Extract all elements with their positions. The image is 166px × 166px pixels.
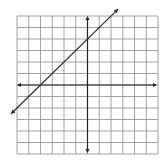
y-axis-down-arrow-icon xyxy=(85,149,89,153)
x-axis-left-arrow-icon xyxy=(17,83,21,87)
plotted-line xyxy=(11,9,118,114)
x-axis-right-arrow-icon xyxy=(153,83,157,87)
axes xyxy=(17,16,157,153)
coordinate-plane-graph xyxy=(0,0,166,166)
data-series xyxy=(11,9,118,114)
plot-area xyxy=(0,0,166,166)
y-axis-up-arrow-icon xyxy=(85,16,89,20)
